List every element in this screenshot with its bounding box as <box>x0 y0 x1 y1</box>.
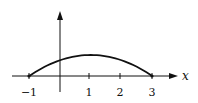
chart: −1 1 2 3 x <box>0 0 198 103</box>
tick-label-1: 1 <box>86 86 93 99</box>
x-axis-arrow-icon <box>169 73 178 79</box>
y-axis-arrow-icon <box>57 11 63 20</box>
right-endpoint <box>150 74 153 77</box>
tick-label-3: 3 <box>149 86 156 99</box>
left-endpoint <box>27 74 30 77</box>
curve-series <box>29 55 152 76</box>
x-axis-label: x <box>182 69 189 83</box>
tick-label-2: 2 <box>117 86 124 99</box>
tick-label-neg1: −1 <box>21 86 37 99</box>
